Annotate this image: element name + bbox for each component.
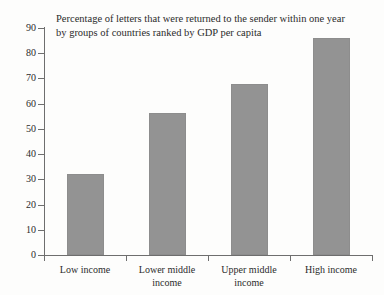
category-label-line: income <box>208 277 290 290</box>
category-label-line: Upper middle <box>208 264 290 277</box>
y-tick-label-50: 50 <box>2 124 36 134</box>
x-tick-separator-3 <box>290 256 291 261</box>
category-label-line: income <box>126 277 208 290</box>
y-tick-label-80: 80 <box>2 48 36 58</box>
bar-2 <box>231 84 268 256</box>
bar-1 <box>149 113 186 256</box>
category-label-1: Lower middleincome <box>126 264 208 289</box>
y-tick-label-90: 90 <box>2 23 36 33</box>
y-tick-label-70: 70 <box>2 73 36 83</box>
category-label-line: High income <box>290 264 372 277</box>
y-tick-label-60: 60 <box>2 99 36 109</box>
x-tick-separator-4 <box>372 256 373 261</box>
x-tick-separator-0 <box>44 256 45 261</box>
y-tick-label-10: 10 <box>2 225 36 235</box>
chart-screenshot: Percentage of letters that were returned… <box>0 0 384 295</box>
y-tick-label-0: 0 <box>2 250 36 260</box>
y-tick-label-30: 30 <box>2 174 36 184</box>
x-tick-separator-1 <box>126 256 127 261</box>
category-label-line: Low income <box>44 264 126 277</box>
category-label-0: Low income <box>44 264 126 277</box>
plot-area <box>44 28 372 255</box>
category-label-2: Upper middleincome <box>208 264 290 289</box>
bar-3 <box>313 38 350 255</box>
y-tick-label-20: 20 <box>2 200 36 210</box>
category-label-line: Lower middle <box>126 264 208 277</box>
bar-0 <box>67 174 104 255</box>
y-tick-label-40: 40 <box>2 149 36 159</box>
x-tick-separator-2 <box>208 256 209 261</box>
category-label-3: High income <box>290 264 372 277</box>
